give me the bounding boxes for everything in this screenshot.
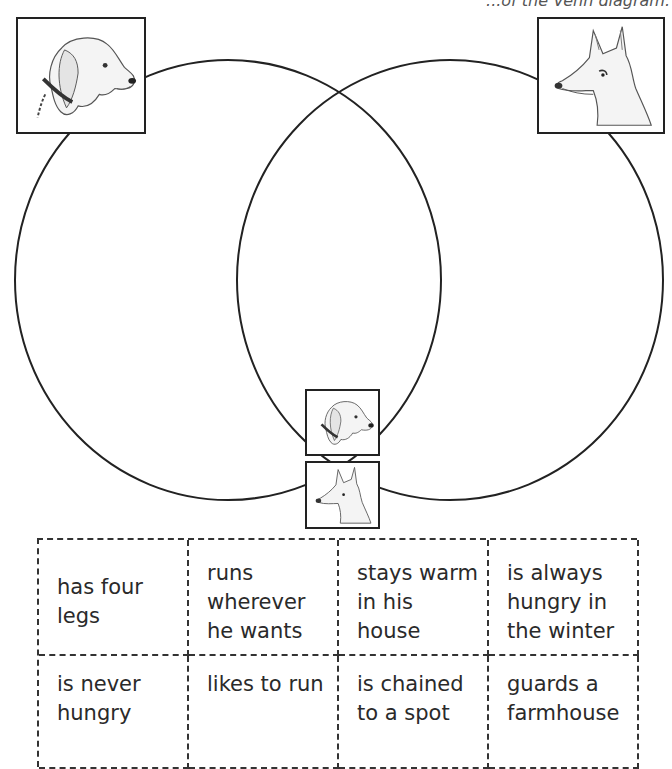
fox-head-icon [539,19,663,132]
card[interactable]: is always hungry in the winter [489,540,639,656]
card[interactable]: guards a farmhouse [489,656,639,769]
fox-picture-large [537,17,665,134]
card[interactable]: has four legs [39,540,189,656]
card[interactable]: likes to run [189,656,339,769]
card[interactable]: runs wherever he wants [189,540,339,656]
dog-head-icon [18,19,144,132]
dog-head-icon [307,391,378,454]
dog-picture-large [16,17,146,134]
card[interactable]: is chained to a spot [339,656,489,769]
dog-picture-small [305,389,380,456]
card[interactable]: stays warm in his house [339,540,489,656]
card[interactable]: is never hungry [39,656,189,769]
fox-head-icon [307,463,378,527]
fox-picture-small [305,461,380,529]
cut-out-cards-grid: has four legs runs wherever he wants sta… [37,538,637,767]
